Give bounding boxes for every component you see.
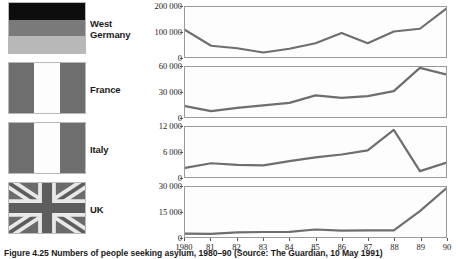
y-tick-label: 12 000 <box>159 121 182 131</box>
chart-west-germany: 0100 000200 000 <box>132 6 459 58</box>
west-germany-flag-icon <box>8 2 86 54</box>
plot-area-1 <box>184 66 447 118</box>
uk-flag-icon <box>8 182 86 234</box>
data-line <box>185 9 446 53</box>
y-tick-mark <box>180 66 183 67</box>
legend-row-italy: Italy <box>0 120 132 178</box>
chart-france: 030 00060 000 <box>132 66 459 118</box>
x-tick-mark <box>263 238 264 241</box>
y-tick-mark <box>180 58 183 59</box>
france-flag-icon <box>8 62 86 114</box>
x-tick-mark <box>421 238 422 241</box>
y-tick-label: 60 000 <box>159 61 182 71</box>
x-tick-mark <box>289 238 290 241</box>
x-tick-mark <box>210 238 211 241</box>
y-tick-mark <box>180 6 183 7</box>
data-line <box>185 189 446 234</box>
figure-container: West Germany France Italy <box>0 0 459 259</box>
y-axis-labels-3: 015 00030 000 <box>132 186 182 238</box>
data-line <box>185 130 446 171</box>
y-tick-label: 30 000 <box>159 181 182 191</box>
figure-caption: Figure 4.25 Numbers of people seeking as… <box>4 248 456 258</box>
y-axis-labels-0: 0100 000200 000 <box>132 6 182 58</box>
legend-label-west-germany: West Germany <box>90 0 134 58</box>
y-tick-mark <box>180 186 183 187</box>
plot-area-3 <box>184 186 447 238</box>
y-tick-mark <box>180 212 183 213</box>
legend-row-west-germany: West Germany <box>0 0 132 58</box>
legend-label-italy: Italy <box>90 120 134 178</box>
y-tick-mark <box>180 32 183 33</box>
data-line <box>185 68 446 111</box>
y-tick-label: 15 000 <box>159 207 182 217</box>
x-tick-mark <box>342 238 343 241</box>
legend-label-france: France <box>90 60 134 118</box>
country-legend: West Germany France Italy <box>0 0 132 240</box>
y-tick-label: 30 000 <box>159 87 182 97</box>
x-tick-mark <box>447 238 448 241</box>
y-tick-mark <box>180 126 183 127</box>
italy-flag-icon <box>8 122 86 174</box>
y-tick-label: 100 000 <box>154 27 182 37</box>
y-axis-labels-2: 06 00012 000 <box>132 126 182 178</box>
x-tick-mark <box>184 238 185 241</box>
x-tick-mark <box>237 238 238 241</box>
y-tick-mark <box>180 92 183 93</box>
x-tick-mark <box>394 238 395 241</box>
chart-italy: 06 00012 000 <box>132 126 459 178</box>
chart-uk: 015 00030 000 <box>132 186 459 238</box>
legend-row-uk: UK <box>0 180 132 238</box>
y-tick-mark <box>180 178 183 179</box>
plot-area-0 <box>184 6 447 58</box>
legend-label-uk: UK <box>90 180 134 238</box>
x-tick-mark <box>316 238 317 241</box>
y-axis-labels-1: 030 00060 000 <box>132 66 182 118</box>
plot-area-2 <box>184 126 447 178</box>
y-tick-mark <box>180 152 183 153</box>
legend-row-france: France <box>0 60 132 118</box>
y-tick-mark <box>180 118 183 119</box>
y-tick-label: 200 000 <box>154 1 182 11</box>
x-tick-mark <box>368 238 369 241</box>
